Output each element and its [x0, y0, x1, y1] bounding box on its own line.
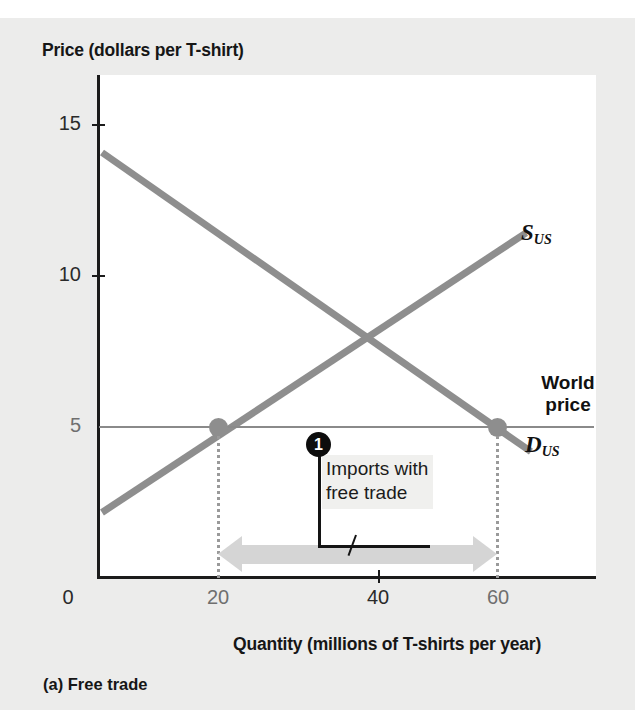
- x-tick-label-20: 20: [188, 586, 248, 609]
- callout-text: Imports with free trade: [322, 455, 433, 509]
- x-tick-mark-40: [378, 570, 380, 583]
- y-tick-label-10: 10: [33, 263, 81, 286]
- figure-caption: (a) Free trade: [43, 675, 148, 694]
- y-axis-line: [97, 75, 100, 579]
- y-tick-mark-10: [92, 275, 105, 277]
- callout-bracket-horizontal: [318, 545, 430, 548]
- world-price-label-line2: price: [528, 394, 608, 416]
- world-price-line: [99, 426, 594, 428]
- x-axis-title: Quantity (millions of T-shirts per year): [233, 634, 541, 655]
- import-arrow-bar: [240, 545, 475, 564]
- callout-badge-1: 1: [306, 432, 331, 457]
- world-price-label: World price: [528, 372, 608, 416]
- callout-bracket-vertical: [318, 448, 321, 547]
- figure-free-trade: Price (dollars per T-shirt) 15 10 5 0 20…: [0, 0, 635, 720]
- x-tick-label-40: 40: [348, 586, 408, 609]
- supply-curve-label: SUS: [521, 220, 552, 246]
- world-price-label-line1: World: [528, 372, 608, 394]
- import-arrow-right-head: [473, 536, 497, 572]
- x-tick-label-60: 60: [468, 586, 528, 609]
- demand-curve-label: DUS: [525, 432, 560, 458]
- point-domestic-demand: [488, 418, 507, 437]
- x-axis-line: [97, 576, 596, 579]
- import-arrow-left-head: [218, 536, 242, 572]
- y-axis-title: Price (dollars per T-shirt): [42, 40, 244, 61]
- y-tick-mark-15: [92, 124, 105, 126]
- y-tick-label-5: 5: [33, 414, 81, 437]
- x-tick-label-0: 0: [38, 586, 98, 609]
- y-tick-label-15: 15: [33, 112, 81, 135]
- point-domestic-supply: [209, 418, 228, 437]
